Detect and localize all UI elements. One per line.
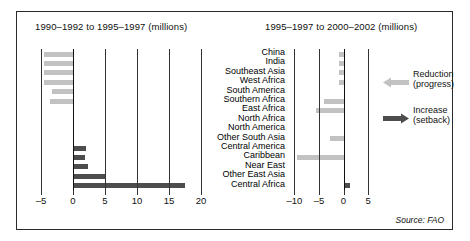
gridline-minus10 xyxy=(294,49,295,190)
axis-tick-label: –5 xyxy=(36,195,47,206)
bar-caribbean xyxy=(73,155,85,160)
chart-figure: 1990–1992 to 1995–1997 (millions) 1995–1… xyxy=(16,11,453,230)
bar-row xyxy=(287,87,373,96)
bar-india xyxy=(44,61,73,66)
bar-row xyxy=(287,153,373,162)
legend-increase-line1: Increase xyxy=(413,105,448,115)
region-label-column: ChinaIndiaSoutheast AsiaWest AfricaSouth… xyxy=(203,49,285,190)
left-chart-title: 1990–1992 to 1995–1997 (millions) xyxy=(35,21,187,32)
bar-row xyxy=(41,59,201,68)
gridline-minus5 xyxy=(319,49,320,190)
bar-west-africa xyxy=(44,80,73,85)
bar-row xyxy=(287,68,373,77)
bar-row xyxy=(287,162,373,171)
bar-east-africa xyxy=(316,108,344,113)
left-chart-x-axis: –505101520 xyxy=(41,190,201,206)
source-note: Source: FAO xyxy=(396,215,445,225)
gridline-minus5 xyxy=(41,49,42,190)
bar-southeast-asia xyxy=(44,70,73,75)
gridline-5 xyxy=(105,49,106,190)
legend-reduction-line1: Reduction xyxy=(413,69,454,79)
bar-row xyxy=(41,50,201,59)
bar-central-america xyxy=(73,146,86,151)
bar-other-south-asia xyxy=(330,136,343,141)
bar-row xyxy=(41,106,201,115)
bar-row xyxy=(287,59,373,68)
axis-tick-label: 5 xyxy=(365,195,370,206)
axis-tick-label: 15 xyxy=(164,195,175,206)
bar-row xyxy=(287,78,373,87)
bar-row xyxy=(41,97,201,106)
gridline-5 xyxy=(368,49,369,190)
bar-row xyxy=(41,68,201,77)
gridline-0 xyxy=(344,49,345,190)
bar-row xyxy=(287,144,373,153)
legend-label-increase: Increase (setback) xyxy=(413,105,450,125)
bar-row xyxy=(287,50,373,59)
legend-increase-line2: (setback) xyxy=(413,115,450,125)
right-chart-bars xyxy=(287,49,373,190)
bar-row xyxy=(287,106,373,115)
axis-tick-label: 20 xyxy=(196,195,207,206)
bar-row xyxy=(287,97,373,106)
bar-row xyxy=(41,78,201,87)
axis-tick-label: 0 xyxy=(341,195,346,206)
bar-caribbean xyxy=(297,155,344,160)
bar-row xyxy=(287,115,373,124)
legend-label-reduction: Reduction (progress) xyxy=(413,69,454,89)
arrow-right-icon xyxy=(383,110,409,121)
bar-row xyxy=(41,115,201,124)
bar-southern-africa xyxy=(324,99,344,104)
gridline-0 xyxy=(73,49,74,190)
bar-china xyxy=(44,52,73,57)
left-chart-bars xyxy=(41,49,201,190)
region-label-central-africa: Central Africa xyxy=(231,180,285,189)
bar-southern-africa xyxy=(50,99,73,104)
arrow-left-icon xyxy=(383,74,409,85)
bar-row xyxy=(287,172,373,181)
bar-row xyxy=(287,134,373,143)
bar-row xyxy=(41,172,201,181)
axis-tick-label: –10 xyxy=(286,195,302,206)
gridline-15 xyxy=(169,49,170,190)
right-chart-plot-area xyxy=(287,49,373,190)
bar-south-america xyxy=(52,89,73,94)
bar-row xyxy=(41,144,201,153)
axis-tick-label: –5 xyxy=(314,195,325,206)
bar-row xyxy=(41,162,201,171)
bar-row xyxy=(41,153,201,162)
axis-tick-label: 0 xyxy=(70,195,75,206)
bar-row xyxy=(41,125,201,134)
gridline-20 xyxy=(201,49,202,190)
axis-tick-label: 5 xyxy=(102,195,107,206)
gridline-10 xyxy=(137,49,138,190)
axis-tick-label: 10 xyxy=(132,195,143,206)
bar-row xyxy=(41,87,201,96)
left-chart-plot-area xyxy=(41,49,201,190)
bar-near-east xyxy=(73,164,88,169)
legend-reduction-line2: (progress) xyxy=(413,79,454,89)
right-chart-title: 1995–1997 to 2000–2002 (millions) xyxy=(265,21,417,32)
right-chart-x-axis: –10–505 xyxy=(287,190,373,206)
bar-other-east-asia xyxy=(73,174,106,179)
bar-row xyxy=(41,134,201,143)
bar-row xyxy=(287,125,373,134)
